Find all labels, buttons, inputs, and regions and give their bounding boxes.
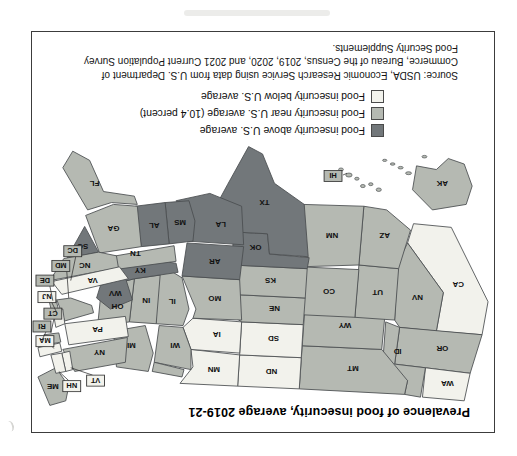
islands-ak: [390, 163, 395, 165]
legend-item-near: Food insecurity near U.S. average (10.4 …: [140, 105, 384, 122]
source-line-2: Commerce, Bureau of the Census, 2019, 20…: [84, 55, 458, 69]
boxed-label-text-nh: NH: [66, 381, 77, 389]
legend-swatch-below: [371, 90, 384, 103]
state-label-ms: MS: [174, 218, 186, 227]
state-label-ar: AR: [209, 258, 221, 267]
state-label-tn: TN: [130, 249, 141, 258]
figure-frame: Prevalence of food insecurity, average 2…: [31, 31, 495, 433]
state-label-wv: WV: [108, 289, 122, 298]
state-label-oh: OH: [111, 302, 123, 311]
boxed-label-text-ri: RI: [38, 322, 45, 330]
state-label-or: OR: [436, 344, 448, 353]
islands-hi: [360, 184, 365, 187]
islands-hi: [376, 188, 381, 191]
legend-item-above: Food insecurity above U.S. average: [140, 122, 384, 139]
boxed-label-text-nj: NJ: [42, 292, 52, 300]
state-label-pa: PA: [92, 325, 103, 334]
state-label-tx: TX: [258, 198, 269, 207]
state-label-nm: NM: [326, 231, 338, 240]
state-label-ky: KY: [135, 266, 146, 275]
state-ia: [183, 318, 242, 353]
state-label-ks: KS: [265, 276, 276, 285]
state-label-in: IN: [142, 296, 150, 305]
source-line-3: Food Security Supplements.: [84, 42, 458, 56]
islands-ak: [383, 159, 387, 161]
boxed-label-text-ct: CT: [47, 309, 58, 317]
state-label-ok: OK: [249, 243, 261, 252]
islands-hi: [369, 183, 373, 186]
map-legend: Food insecurity above U.S. average Food …: [140, 88, 384, 139]
legend-label-near: Food insecurity near U.S. average (10.4 …: [140, 108, 365, 119]
source-note: Source: USDA, Economic Research Service …: [84, 42, 458, 83]
state-label-mt: MT: [347, 364, 359, 373]
state-label-ia: IA: [212, 330, 220, 339]
islands-ak: [406, 172, 412, 175]
legend-item-below: Food insecurity below U.S. average: [140, 88, 384, 105]
boxed-label-text-md: MD: [55, 261, 67, 269]
state-label-id: ID: [393, 347, 401, 356]
state-label-va: VA: [87, 276, 98, 285]
state-label-wy: WY: [339, 321, 352, 330]
us-choropleth-map: CANVORWAIDMTWYUTCOAZNMNDSDNEKSOKTXMNIAMO…: [32, 142, 494, 410]
state-label-mn: MN: [208, 365, 220, 374]
state-label-fl: FL: [89, 179, 99, 188]
boxed-label-text-dc: DC: [67, 247, 78, 255]
state-label-al: AL: [149, 221, 160, 230]
state-label-la: LA: [215, 220, 226, 229]
boxed-label-text-vt: VT: [90, 376, 100, 384]
scan-mark: [4, 420, 16, 433]
state-label-wi: WI: [170, 341, 180, 350]
state-label-az: AZ: [379, 231, 390, 240]
scanned-figure-rotated-180: Prevalence of food insecurity, average 2…: [0, 0, 517, 456]
state-label-nv: NV: [411, 293, 423, 302]
scan-smudge: [184, 10, 330, 16]
state-label-il: IL: [168, 297, 175, 306]
state-label-ut: UT: [372, 288, 383, 297]
state-label-ca: CA: [452, 281, 464, 290]
boxed-label-text-de: DE: [40, 276, 51, 284]
legend-label-below: Food insecurity below U.S. average: [201, 91, 365, 102]
state-label-ak: AK: [436, 180, 448, 189]
legend-swatch-above: [371, 124, 384, 137]
state-label-ne: NE: [269, 304, 280, 313]
leader-line-ct: [51, 319, 54, 333]
state-label-nd: ND: [265, 367, 277, 376]
islands-hi: [355, 177, 359, 180]
state-label-nc: NC: [78, 261, 90, 270]
islands-ak: [422, 155, 427, 158]
state-label-mi: MI: [127, 341, 136, 350]
state-label-sd: SD: [267, 334, 279, 343]
legend-label-above: Food insecurity above U.S. average: [200, 125, 365, 136]
boxed-label-text-ma: MA: [39, 336, 51, 344]
state-label-me: ME: [47, 382, 59, 391]
state-label-ny: NY: [94, 348, 105, 357]
state-label-wa: WA: [440, 379, 453, 388]
islands-ak: [398, 166, 403, 169]
boxed-label-text-hi: HI: [329, 171, 336, 179]
source-line-1: Source: USDA, Economic Research Service …: [84, 69, 458, 83]
state-label-co: CO: [323, 287, 335, 296]
state-label-mo: MO: [208, 294, 221, 303]
state-label-ga: GA: [107, 225, 119, 234]
legend-swatch-near: [371, 107, 384, 120]
